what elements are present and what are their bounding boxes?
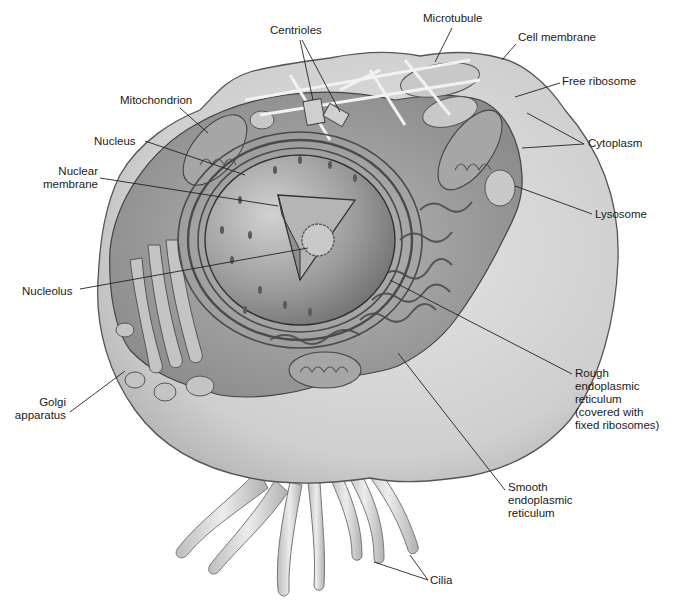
label-line: reticulum: [575, 393, 659, 406]
label-microtubule: Microtubule: [423, 12, 482, 25]
cell-illustration: [0, 0, 674, 608]
leader-line-cilia-b: [410, 555, 428, 580]
label-line: Free ribosome: [562, 75, 636, 88]
label-line: Microtubule: [423, 12, 482, 25]
leader-line-cilia-a: [374, 562, 428, 580]
label-line: fixed ribosomes): [575, 419, 659, 432]
label-line: reticulum: [508, 507, 573, 520]
leader-line-golgi: [70, 371, 125, 412]
nucleolus-shape: [302, 224, 334, 256]
label-free-ribosome: Free ribosome: [562, 75, 636, 88]
cell-diagram: CentriolesMicrotubuleCell membraneMitoch…: [0, 0, 674, 608]
label-line: (covered with: [575, 406, 659, 419]
label-line: Lysosome: [595, 208, 647, 221]
label-smooth-er: Smoothendoplasmicreticulum: [508, 481, 573, 520]
label-nuclear-membrane: Nuclearmembrane: [40, 165, 98, 191]
label-mitochondrion: Mitochondrion: [120, 94, 192, 107]
label-rough-er: Roughendoplasmicreticulum(covered withfi…: [575, 367, 659, 432]
label-line: Centrioles: [270, 24, 322, 37]
label-line: endoplasmic: [575, 380, 659, 393]
label-centrioles: Centrioles: [270, 24, 322, 37]
label-golgi: Golgiapparatus: [12, 396, 66, 422]
label-cilia: Cilia: [430, 574, 452, 587]
label-line: Cilia: [430, 574, 452, 587]
label-lysosome: Lysosome: [595, 208, 647, 221]
label-nucleus: Nucleus: [94, 135, 136, 148]
label-line: Rough: [575, 367, 659, 380]
label-line: Cell membrane: [518, 31, 596, 44]
label-line: Cytoplasm: [588, 137, 642, 150]
label-line: Mitochondrion: [120, 94, 192, 107]
label-cell-membrane: Cell membrane: [518, 31, 596, 44]
label-line: Nucleolus: [22, 285, 73, 298]
label-line: Smooth: [508, 481, 573, 494]
label-line: apparatus: [12, 409, 66, 422]
label-cytoplasm: Cytoplasm: [588, 137, 642, 150]
leader-line-cell-membrane: [502, 44, 516, 60]
label-line: Nuclear: [40, 165, 98, 178]
label-line: endoplasmic: [508, 494, 573, 507]
label-nucleolus: Nucleolus: [22, 285, 73, 298]
label-line: Nucleus: [94, 135, 136, 148]
label-line: membrane: [40, 178, 98, 191]
label-line: Golgi: [12, 396, 66, 409]
